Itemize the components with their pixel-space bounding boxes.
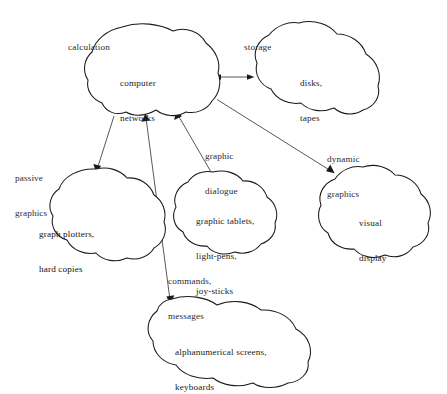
edge-tablets-to-networks — [174, 111, 211, 172]
node-shape-alphanumerical-screens — [148, 297, 310, 388]
node-shape-graphic-tablets — [174, 171, 277, 254]
node-shape-visual-display — [319, 165, 431, 257]
diagram-svg — [0, 0, 447, 394]
node-shape-graph-plotters — [50, 168, 166, 261]
edge-networks-to-plotters — [93, 116, 114, 172]
diagram-canvas-root: computer networks disks, tapes graph plo… — [0, 0, 447, 394]
node-shape-disks-tapes — [255, 22, 379, 114]
node-shape-computer-networks — [85, 24, 220, 116]
